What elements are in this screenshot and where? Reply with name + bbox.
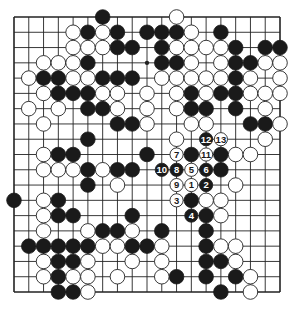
numbered-move-13: 13 <box>214 133 227 146</box>
black-stone <box>154 25 169 40</box>
white-stone <box>258 132 273 147</box>
black-stone <box>125 208 140 223</box>
black-stone <box>199 239 214 254</box>
white-stone <box>21 71 36 86</box>
black-stone <box>184 147 199 162</box>
black-stone <box>169 269 184 284</box>
go-board: 12345678910111213 <box>0 0 293 310</box>
move-number: 6 <box>203 164 208 175</box>
black-stone <box>66 254 81 269</box>
black-stone <box>228 269 243 284</box>
white-stone <box>273 71 288 86</box>
black-stone <box>258 40 273 55</box>
black-stone <box>51 239 66 254</box>
black-stone <box>51 193 66 208</box>
white-stone <box>154 239 169 254</box>
white-stone <box>184 117 199 132</box>
white-stone <box>214 193 229 208</box>
black-stone <box>36 71 51 86</box>
white-stone <box>140 101 155 116</box>
move-number: 3 <box>174 195 179 206</box>
white-stone <box>154 269 169 284</box>
move-number: 1 <box>189 179 195 190</box>
black-stone <box>214 147 229 162</box>
white-stone <box>66 25 81 40</box>
black-stone <box>273 40 288 55</box>
black-stone <box>66 239 81 254</box>
black-stone <box>228 86 243 101</box>
black-stone <box>140 25 155 40</box>
black-stone <box>110 40 125 55</box>
black-stone <box>110 224 125 239</box>
white-stone <box>243 269 258 284</box>
white-stone <box>81 224 96 239</box>
white-stone <box>258 56 273 71</box>
move-number: 10 <box>156 164 167 175</box>
white-stone <box>154 71 169 86</box>
white-stone <box>95 86 110 101</box>
black-stone <box>95 101 110 116</box>
black-stone <box>51 147 66 162</box>
move-number: 12 <box>201 134 212 145</box>
white-stone <box>51 56 66 71</box>
white-stone <box>214 71 229 86</box>
black-stone <box>199 254 214 269</box>
black-stone <box>184 101 199 116</box>
white-stone <box>36 86 51 101</box>
black-stone <box>184 193 199 208</box>
black-stone <box>51 208 66 223</box>
white-stone <box>110 86 125 101</box>
black-stone <box>243 117 258 132</box>
white-stone <box>66 40 81 55</box>
white-stone <box>81 254 96 269</box>
black-stone <box>81 56 96 71</box>
white-stone <box>199 117 214 132</box>
black-stone <box>125 71 140 86</box>
white-stone <box>214 208 229 223</box>
white-stone <box>199 40 214 55</box>
white-stone <box>228 178 243 193</box>
black-stone <box>95 224 110 239</box>
black-stone <box>169 25 184 40</box>
white-stone <box>95 25 110 40</box>
white-stone <box>169 86 184 101</box>
numbered-move-12: 12 <box>200 133 213 146</box>
black-stone <box>81 101 96 116</box>
white-stone <box>184 71 199 86</box>
white-stone <box>243 71 258 86</box>
black-stone <box>66 86 81 101</box>
white-stone <box>169 40 184 55</box>
black-stone <box>125 40 140 55</box>
white-stone <box>36 208 51 223</box>
black-stone <box>154 56 169 71</box>
black-stone <box>125 239 140 254</box>
numbered-move-1: 1 <box>185 178 198 191</box>
white-stone <box>214 40 229 55</box>
numbered-move-5: 5 <box>185 163 198 176</box>
white-stone <box>66 269 81 284</box>
white-stone <box>258 86 273 101</box>
move-number: 4 <box>189 210 195 221</box>
black-stone <box>184 86 199 101</box>
white-stone <box>95 162 110 177</box>
white-stone <box>184 40 199 55</box>
white-stone <box>95 40 110 55</box>
move-number: 7 <box>174 149 179 160</box>
white-stone <box>36 269 51 284</box>
black-stone <box>199 224 214 239</box>
black-stone <box>95 71 110 86</box>
black-stone <box>214 254 229 269</box>
black-stone <box>51 254 66 269</box>
black-stone <box>66 208 81 223</box>
black-stone <box>214 86 229 101</box>
black-stone <box>21 239 36 254</box>
white-stone <box>169 10 184 25</box>
white-stone <box>66 71 81 86</box>
black-stone <box>214 285 229 300</box>
black-stone <box>81 132 96 147</box>
white-stone <box>95 239 110 254</box>
white-stone <box>36 162 51 177</box>
black-stone <box>228 56 243 71</box>
white-stone <box>81 71 96 86</box>
black-stone <box>81 178 96 193</box>
